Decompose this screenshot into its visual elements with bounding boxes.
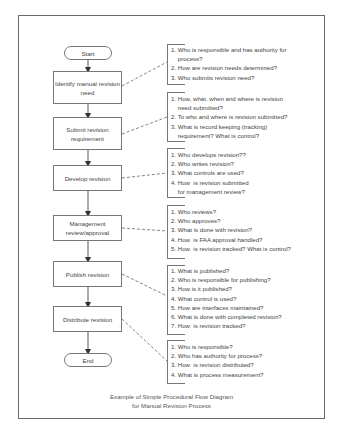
end-terminal: End [64, 353, 112, 367]
question-list-distribute: 1. Who is responsible? 2. Who has author… [171, 342, 263, 379]
step-identify-revision-need: Identify manual revision need [53, 71, 122, 104]
question-list-submit: 1. How, what, when and where is revision… [171, 94, 287, 140]
question-list-publish: 1. What is published? 2. Who is responsi… [171, 266, 282, 330]
step-publish-revision: Publish revision [53, 261, 122, 287]
step-distribute-revision: Distribute revision [53, 306, 122, 332]
step-develop-revision: Develop revision [53, 165, 122, 191]
start-terminal: Start [64, 46, 112, 60]
step-management-review: Management review/approval [53, 215, 122, 241]
question-list-develop: 1. Who develops revision?? 2. Who writes… [171, 150, 249, 196]
diagram-caption-line-1: Example of Simple Procedural Flow Diagra… [18, 392, 325, 401]
step-submit-revision-requirement: Submit revision requirement [53, 117, 122, 150]
diagram-caption-line-2: for Manual Revision Process [18, 401, 325, 410]
question-list-management: 1. Who reviews? 2. Who approves? 3. What… [171, 207, 291, 253]
question-list-identify: 1. Who is responsible and has authority … [171, 45, 287, 82]
